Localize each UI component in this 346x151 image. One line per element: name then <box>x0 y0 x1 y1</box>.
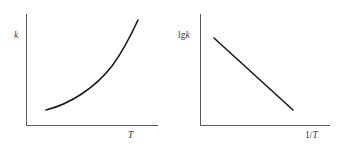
figure-container: k T lgk 1/T <box>0 0 346 151</box>
y-axis-label-k: k <box>14 31 18 41</box>
y-axis-label-lg-k: lgk <box>178 31 190 41</box>
data-curve-exponential <box>46 20 138 110</box>
data-line-arrhenius <box>214 38 293 110</box>
x-axis-label-T: T <box>128 131 133 141</box>
chart-panel-lgk-vs-invT: lgk 1/T <box>173 0 346 151</box>
chart-panel-k-vs-T: k T <box>0 0 173 151</box>
x-axis-label-inverse-T: 1/T <box>305 131 318 141</box>
plot-area-right <box>173 0 346 151</box>
plot-area-left <box>0 0 173 151</box>
